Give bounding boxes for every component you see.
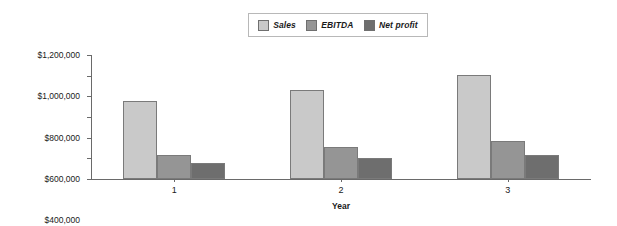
x-tick-mark (341, 179, 342, 182)
x-tick-mark (174, 179, 175, 182)
y-tick-label: $800,000 (45, 133, 80, 143)
bar-chart: SalesEBITDANet profit $0$200,000$400,000… (0, 0, 617, 226)
y-tick-mark: $200,000 (87, 158, 91, 159)
bar (324, 147, 358, 179)
y-tick-mark: $0 (87, 179, 91, 180)
x-tick-label: 3 (505, 185, 510, 195)
y-tick-label: $1,000,000 (37, 91, 80, 101)
y-tick-label: $400,000 (45, 215, 80, 225)
bar (157, 155, 191, 179)
legend-label: Net profit (379, 20, 418, 30)
bar (491, 141, 525, 179)
bar (191, 163, 225, 179)
legend-entry[interactable]: Sales (258, 20, 296, 31)
y-axis-line (91, 55, 92, 179)
bar (525, 155, 559, 179)
y-tick-label: $600,000 (45, 174, 80, 184)
y-tick-mark: $1,200,000 (87, 55, 91, 56)
legend-swatch-icon (364, 20, 375, 31)
y-tick-label: $1,200,000 (37, 50, 80, 60)
x-axis-title: Year (91, 201, 591, 211)
x-tick-label: 2 (338, 185, 343, 195)
legend-entry[interactable]: EBITDA (306, 20, 353, 31)
legend-label: Sales (273, 20, 296, 30)
x-tick-mark (508, 179, 509, 182)
legend-label: EBITDA (321, 20, 353, 30)
bar (123, 101, 157, 179)
y-tick-mark: $1,000,000 (87, 76, 91, 77)
bar (290, 90, 324, 179)
y-tick-mark: $400,000 (87, 138, 91, 139)
bar (358, 158, 392, 179)
bar (457, 75, 491, 179)
legend-swatch-icon (306, 20, 317, 31)
legend-entry[interactable]: Net profit (364, 20, 418, 31)
plot-area: $0$200,000$400,000$600,000$800,000$1,000… (91, 55, 591, 179)
y-tick-mark: $800,000 (87, 96, 91, 97)
x-tick-label: 1 (172, 185, 177, 195)
y-tick-mark: $600,000 (87, 117, 91, 118)
chart-legend: SalesEBITDANet profit (248, 13, 428, 37)
legend-swatch-icon (258, 20, 269, 31)
